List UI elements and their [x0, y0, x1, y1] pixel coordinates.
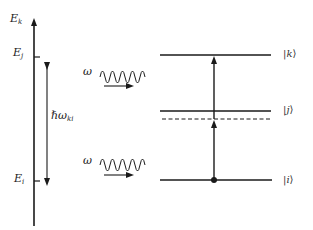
photon-wave-icon	[100, 159, 145, 171]
label-ei: Ei	[14, 173, 24, 186]
label-photon-1: ω	[83, 66, 92, 77]
ket-k: |k⟩	[283, 49, 296, 59]
ket-j-close: ⟩	[289, 104, 293, 115]
initial-state-dot	[211, 177, 217, 183]
label-ek-sub: k	[18, 18, 22, 26]
label-ej-sub: j	[21, 52, 23, 60]
label-ek: Ek	[10, 13, 22, 26]
label-energy-gap-base: ℏω	[51, 109, 67, 122]
ket-j: |j⟩	[283, 105, 293, 115]
photon-wave-icon	[100, 71, 145, 83]
label-ej-base: E	[13, 46, 21, 59]
label-ei-base: E	[14, 172, 22, 185]
ket-i-close: ⟩	[290, 174, 294, 185]
label-ek-base: E	[10, 12, 18, 25]
label-energy-gap: ℏωki	[51, 110, 74, 123]
label-energy-gap-sub: ki	[67, 115, 73, 123]
label-photon-2: ω	[83, 155, 92, 166]
energy-level-diagram	[0, 0, 313, 230]
label-ei-sub: i	[22, 178, 24, 186]
ket-k-close: ⟩	[292, 48, 296, 59]
label-ej: Ej	[13, 47, 23, 60]
ket-i: |i⟩	[283, 175, 293, 185]
